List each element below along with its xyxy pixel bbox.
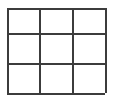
cell-r1c3[interactable] bbox=[72, 8, 105, 33]
cell-r1c2[interactable] bbox=[39, 8, 72, 33]
grid-line-vertical-3 bbox=[72, 8, 74, 93]
grid-line-horizontal-4 bbox=[7, 93, 105, 95]
grid-line-vertical-1 bbox=[7, 8, 9, 93]
grid-line-vertical-4 bbox=[105, 8, 107, 93]
image-canvas bbox=[0, 0, 113, 101]
cell-r2c2[interactable] bbox=[39, 33, 72, 63]
cell-r3c2[interactable] bbox=[39, 63, 72, 93]
grid-line-vertical-2 bbox=[39, 8, 41, 93]
cell-r3c3[interactable] bbox=[72, 63, 105, 93]
cell-r2c1[interactable] bbox=[7, 33, 39, 63]
cell-r3c1[interactable] bbox=[7, 63, 39, 93]
three-by-three-grid[interactable] bbox=[7, 8, 105, 93]
grid-line-horizontal-1 bbox=[7, 8, 105, 10]
grid-line-horizontal-3 bbox=[7, 63, 105, 65]
grid-line-horizontal-2 bbox=[7, 33, 105, 35]
cell-r2c3[interactable] bbox=[72, 33, 105, 63]
cell-r1c1[interactable] bbox=[7, 8, 39, 33]
